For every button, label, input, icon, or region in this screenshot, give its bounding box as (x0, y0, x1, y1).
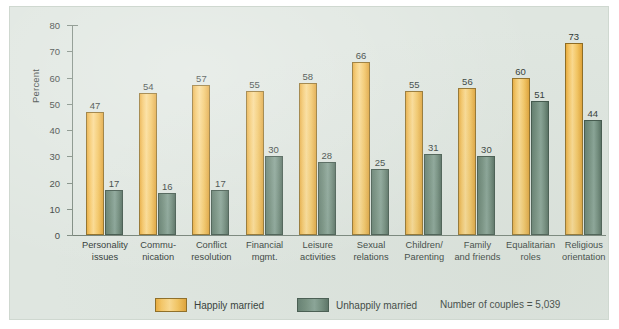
bar-unhappily-married: 30 (265, 156, 283, 235)
category-label-line: Parenting (395, 252, 453, 264)
y-axis-tick-30: 30 (67, 156, 73, 157)
category-label-line: issues (76, 252, 134, 264)
bar-group: 5717 (188, 25, 234, 235)
sample-size-note: Number of couples = 5,039 (440, 299, 560, 310)
bar-group: 5416 (135, 25, 181, 235)
bar-value-label: 30 (481, 144, 492, 155)
category-label-line: orientation (555, 252, 613, 264)
category-label-line: Financial (236, 240, 294, 252)
legend-label-happily-married: Happily married (194, 300, 264, 311)
y-axis-title: Percent (30, 69, 41, 103)
bar-value-label: 17 (215, 178, 226, 189)
legend-label-unhappily-married: Unhappily married (336, 300, 417, 311)
category-label-line: Commu- (129, 240, 187, 252)
bar-value-label: 73 (569, 31, 580, 42)
y-axis-tick-label-80: 80 (49, 20, 60, 31)
y-axis-tick-60: 60 (67, 78, 73, 79)
category-label: Leisureactivities (289, 240, 347, 263)
bar-unhappily-married: 31 (424, 154, 442, 235)
x-axis-line (72, 235, 606, 236)
bar-group: 5531 (401, 25, 447, 235)
category-label-line: Leisure (289, 240, 347, 252)
bar-value-label: 51 (534, 89, 545, 100)
bar-group: 5828 (295, 25, 341, 235)
bar-value-label: 55 (249, 79, 260, 90)
category-label-line: resolution (182, 252, 240, 264)
category-label-line: and friends (448, 252, 506, 264)
y-axis-tick-50: 50 (67, 104, 73, 105)
bar-value-label: 60 (515, 66, 526, 77)
bar-unhappily-married: 44 (584, 120, 602, 236)
bar-happily-married: 54 (139, 93, 157, 235)
bar-value-label: 17 (109, 178, 120, 189)
figure-root: Percent 01020304050607080 47175416571755… (0, 0, 619, 329)
bar-group: 5630 (454, 25, 500, 235)
category-label: Familyand friends (448, 240, 506, 263)
bar-happily-married: 60 (512, 78, 530, 236)
category-label-line: relations (342, 252, 400, 264)
bar-happily-married: 56 (458, 88, 476, 235)
category-label: Financialmgmt. (236, 240, 294, 263)
bar-unhappily-married: 28 (318, 162, 336, 236)
bar-happily-married: 47 (86, 112, 104, 235)
category-label-line: nication (129, 252, 187, 264)
bar-value-label: 57 (196, 73, 207, 84)
plot-area: 01020304050607080 4717541657175530582866… (72, 25, 606, 236)
bar-value-label: 25 (375, 157, 386, 168)
category-label-line: roles (502, 252, 560, 264)
bar-group: 4717 (82, 25, 128, 235)
bar-unhappily-married: 17 (105, 190, 123, 235)
category-label-line: Children/ (395, 240, 453, 252)
bar-unhappily-married: 51 (531, 101, 549, 235)
x-axis-category-labels: PersonalityissuesCommu-nicationConflictr… (72, 240, 606, 276)
y-axis-tick-label-0: 0 (55, 230, 60, 241)
bar-unhappily-married: 16 (158, 193, 176, 235)
bar-happily-married: 66 (352, 62, 370, 235)
chart-panel: Percent 01020304050607080 47175416571755… (10, 7, 608, 319)
category-label-line: Religious (555, 240, 613, 252)
happy-swatch-icon (155, 298, 187, 312)
category-label: Conflictresolution (182, 240, 240, 263)
category-label-line: Equalitarian (502, 240, 560, 252)
category-label: Commu-nication (129, 240, 187, 263)
y-axis-tick-label-40: 40 (49, 125, 60, 136)
bar-value-label: 55 (409, 79, 420, 90)
category-label-line: Family (448, 240, 506, 252)
y-axis-tick-label-30: 30 (49, 151, 60, 162)
unhappy-swatch-icon (297, 298, 329, 312)
bar-group: 5530 (242, 25, 288, 235)
category-label: Religiousorientation (555, 240, 613, 263)
bar-value-label: 56 (462, 76, 473, 87)
category-label: Equalitarianroles (502, 240, 560, 263)
bar-value-label: 54 (143, 81, 154, 92)
category-label-line: Sexual (342, 240, 400, 252)
category-label-line: Conflict (182, 240, 240, 252)
bar-value-label: 16 (162, 181, 173, 192)
category-label-line: mgmt. (236, 252, 294, 264)
chart-legend: Happily married Unhappily married Number… (20, 298, 618, 318)
y-axis-tick-20: 20 (67, 183, 73, 184)
bar-happily-married: 58 (299, 83, 317, 235)
y-axis-tick-70: 70 (67, 51, 73, 52)
bar-unhappily-married: 30 (477, 156, 495, 235)
bar-group: 6051 (508, 25, 554, 235)
bar-group: 6625 (348, 25, 394, 235)
bar-value-label: 28 (322, 150, 333, 161)
bar-group: 7344 (561, 25, 607, 235)
category-label: Children/Parenting (395, 240, 453, 263)
bar-value-label: 47 (90, 100, 101, 111)
category-label-line: Personality (76, 240, 134, 252)
category-label: Personalityissues (76, 240, 134, 263)
y-axis-tick-label-50: 50 (49, 98, 60, 109)
legend-item-happily-married: Happily married (155, 298, 264, 312)
bar-value-label: 31 (428, 142, 439, 153)
bar-value-label: 66 (356, 50, 367, 61)
legend-item-unhappily-married: Unhappily married (297, 298, 417, 312)
y-axis-tick-10: 10 (67, 209, 73, 210)
bar-happily-married: 57 (192, 85, 210, 235)
bar-happily-married: 55 (405, 91, 423, 235)
y-axis-tick-label-20: 20 (49, 177, 60, 188)
bar-unhappily-married: 25 (371, 169, 389, 235)
bar-unhappily-married: 17 (211, 190, 229, 235)
bar-value-label: 44 (588, 108, 599, 119)
